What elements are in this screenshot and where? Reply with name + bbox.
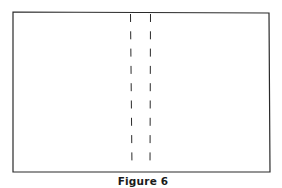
right-fold-line (150, 14, 151, 169)
left-fold-line (131, 14, 133, 169)
figure-diagram (0, 0, 282, 188)
paper-rectangle (13, 12, 270, 172)
figure-caption: Figure 6 (0, 175, 282, 187)
